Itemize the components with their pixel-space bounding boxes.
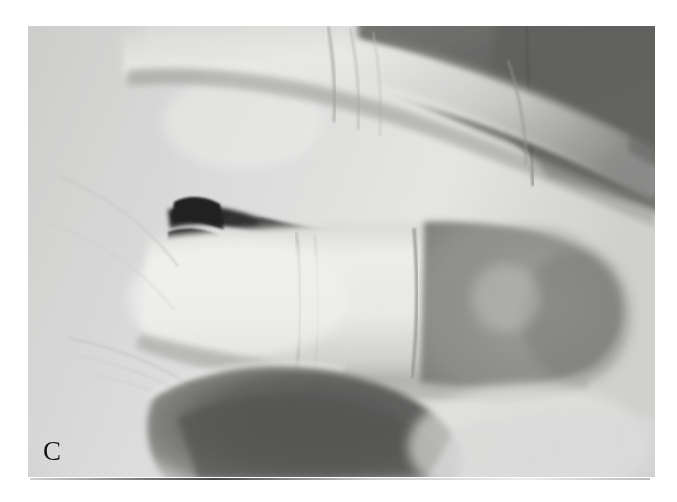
figure-page: C <box>0 0 677 502</box>
plate-bottom-edge <box>30 478 650 480</box>
photo-vignette <box>28 26 655 477</box>
figure-caption-ghost <box>30 484 590 496</box>
clinical-photograph: C <box>28 26 655 477</box>
photo-canvas <box>28 26 655 477</box>
panel-label: C <box>43 438 61 465</box>
